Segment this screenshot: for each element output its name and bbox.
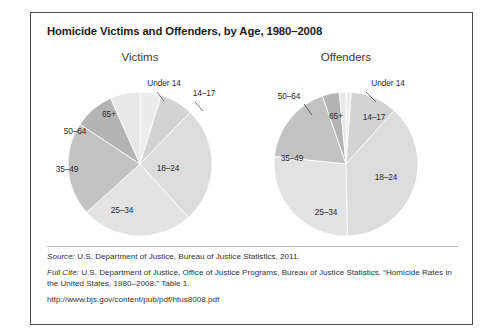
pie-slice-label: 14–17 [363,112,386,122]
pie-slice [274,156,347,236]
note-source-label: Source: [47,252,75,261]
footnotes: Source: U.S. Department of Justice, Bure… [47,252,459,306]
note-fullcite-label: Full Cite: [47,268,79,277]
pie-slice-label: Under 14 [371,78,404,88]
pie-slice-label: 25–34 [315,207,338,217]
figure-frame: Homicide Victims and Offenders, by Age, … [30,12,473,325]
label-leader-line [195,102,203,111]
footnote-divider [47,246,458,247]
pie-slice-label: 18–24 [157,163,180,173]
pie-panel-victims: Victims Under 1414–1718–2425–3435–4950–6… [37,51,243,241]
pie-slice-label: 25–34 [111,205,134,215]
pie-panel-offenders: Offenders Under 1450–6465+14–1718–2425–3… [243,51,449,241]
pie-slice-label: 35–49 [56,164,79,174]
note-source-text: U.S. Department of Justice, Bureau of Ju… [75,252,300,261]
note-fullcite: Full Cite: U.S. Department of Justice, O… [47,268,459,289]
pie-chart-offenders: Under 1450–6465+14–1718–2425–3435–49 [243,51,449,241]
pie-slice-label: 50–64 [64,126,87,136]
note-fullcite-text: U.S. Department of Justice, Office of Ju… [47,268,452,287]
pie-slice-label: 18–24 [375,172,398,182]
pie-slice-label: 65+ [329,111,343,121]
pie-slice-label: 65+ [102,109,116,119]
pie-slice-label: 35–49 [281,153,304,163]
pie-slice-label: Under 14 [147,78,180,88]
pie-slice-label: 14–17 [193,88,216,98]
pie-chart-victims: Under 1414–1718–2425–3435–4950–6465+ [37,51,243,241]
note-source: Source: U.S. Department of Justice, Bure… [47,252,459,262]
pie-svg-offenders [243,51,449,241]
source-url: http://www.bjs.gov/content/pub/pdf/htus8… [47,295,459,305]
pie-svg-victims [37,51,243,241]
page-title: Homicide Victims and Offenders, by Age, … [47,25,322,37]
pie-slice-label: 50–64 [278,91,301,101]
